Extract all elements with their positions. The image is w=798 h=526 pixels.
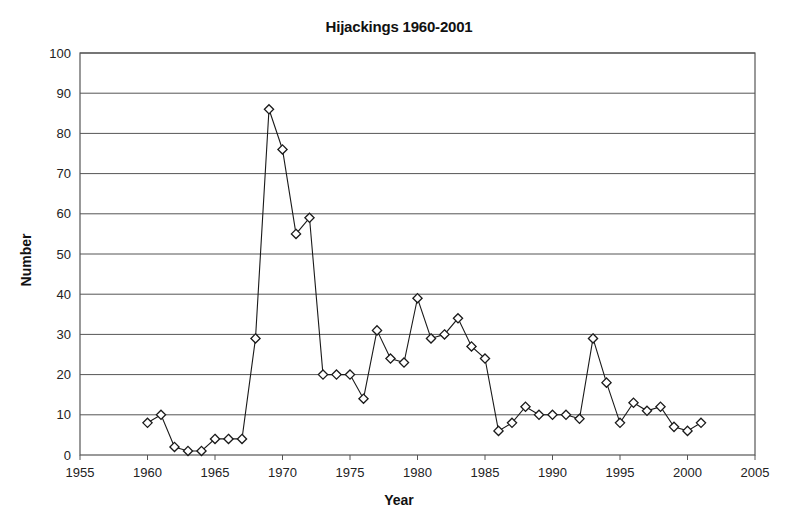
y-tick-label: 10 — [57, 407, 71, 422]
chart-container: Hijackings 1960-2001 Number Year 0102030… — [0, 0, 798, 526]
x-tick-label: 1970 — [268, 465, 297, 480]
x-tick-label: 1965 — [201, 465, 230, 480]
data-point-marker — [332, 370, 341, 379]
data-point-marker — [683, 426, 692, 435]
y-tick-label: 70 — [57, 166, 71, 181]
y-axis-ticks: 0102030405060708090100 — [49, 46, 71, 463]
data-point-marker — [588, 334, 597, 343]
data-point-marker — [548, 410, 557, 419]
data-point-marker — [696, 418, 705, 427]
data-point-marker — [602, 378, 611, 387]
data-point-marker — [426, 334, 435, 343]
data-point-marker — [386, 354, 395, 363]
y-tick-label: 20 — [57, 367, 71, 382]
data-point-marker — [629, 398, 638, 407]
data-point-marker — [345, 370, 354, 379]
data-point-marker — [264, 105, 273, 114]
x-tick-label: 1980 — [403, 465, 432, 480]
series-polyline — [148, 109, 702, 451]
gridlines — [80, 53, 755, 415]
y-tick-label: 0 — [64, 448, 71, 463]
data-point-marker — [534, 410, 543, 419]
data-point-marker — [413, 294, 422, 303]
x-tick-label: 1990 — [538, 465, 567, 480]
y-tick-label: 50 — [57, 247, 71, 262]
x-axis-ticks: 1955196019651970197519801985199019952000… — [66, 455, 770, 480]
x-tick-label: 2000 — [673, 465, 702, 480]
data-point-marker — [170, 442, 179, 451]
data-series-line — [148, 109, 702, 451]
data-point-marker — [183, 446, 192, 455]
y-tick-label: 90 — [57, 86, 71, 101]
data-point-marker — [494, 426, 503, 435]
x-tick-label: 1960 — [133, 465, 162, 480]
x-tick-label: 1955 — [66, 465, 95, 480]
data-point-marker — [224, 434, 233, 443]
data-point-marker — [143, 418, 152, 427]
data-point-marker — [156, 410, 165, 419]
x-tick-label: 2005 — [741, 465, 770, 480]
data-series-markers — [143, 105, 706, 456]
y-tick-label: 40 — [57, 287, 71, 302]
data-point-marker — [372, 326, 381, 335]
data-point-marker — [656, 402, 665, 411]
data-point-marker — [575, 414, 584, 423]
x-tick-label: 1995 — [606, 465, 635, 480]
y-tick-label: 100 — [49, 46, 71, 61]
data-point-marker — [561, 410, 570, 419]
data-point-marker — [237, 434, 246, 443]
x-tick-label: 1985 — [471, 465, 500, 480]
y-tick-label: 80 — [57, 126, 71, 141]
y-tick-label: 60 — [57, 206, 71, 221]
data-point-marker — [615, 418, 624, 427]
data-point-marker — [278, 145, 287, 154]
data-point-marker — [359, 394, 368, 403]
data-point-marker — [669, 422, 678, 431]
y-tick-label: 30 — [57, 327, 71, 342]
data-point-marker — [251, 334, 260, 343]
data-point-marker — [399, 358, 408, 367]
x-tick-label: 1975 — [336, 465, 365, 480]
plot-area: 0102030405060708090100 19551960196519701… — [0, 0, 798, 526]
data-point-marker — [318, 370, 327, 379]
data-point-marker — [642, 406, 651, 415]
